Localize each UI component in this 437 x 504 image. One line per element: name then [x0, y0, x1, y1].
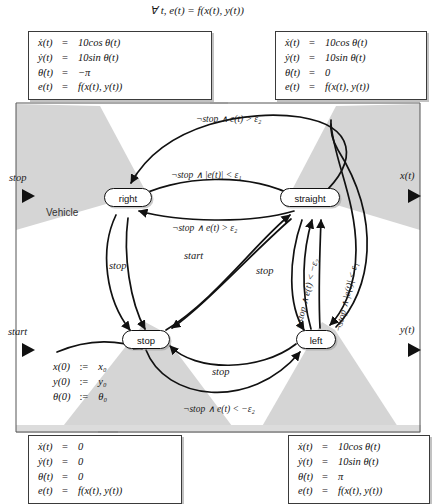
straight-equation-table: ẋ(t) = 10cos θ(t) ẏ(t) = 10sin θ(t) θ̇(t…: [282, 36, 372, 95]
equation-row: ẋ(t) = 10cos θ(t): [295, 440, 385, 455]
equation-row: ẏ(t) = 10sin θ(t): [35, 51, 125, 66]
eq-lhs: ẏ(t): [295, 455, 316, 470]
eq-op: =: [316, 470, 334, 485]
equation-row: e(t) = f(x(t), y(t)): [35, 484, 125, 499]
init-op: :=: [73, 360, 94, 375]
eq-lhs: ẋ(t): [282, 36, 303, 51]
eq-rhs: 0: [74, 440, 125, 455]
eq-op: =: [56, 470, 74, 485]
state-node-left[interactable]: left: [296, 330, 336, 349]
eq-op: =: [56, 484, 74, 499]
global-formula: ∀ t, e(t) = f(x(t), y(t)): [150, 4, 244, 17]
equation-row: e(t) = f(x(t), y(t)): [35, 80, 125, 95]
eq-op: =: [316, 440, 334, 455]
init-assignment-block: x(0) := x₀ y(0) := y₀ θ(0) := θ₀: [50, 360, 110, 404]
eq-rhs: −π: [74, 66, 125, 81]
eq-rhs: 10sin θ(t): [321, 51, 372, 66]
eq-op: =: [56, 80, 74, 95]
vehicle-label: Vehicle: [46, 207, 78, 218]
init-rhs: y₀: [94, 375, 110, 390]
eq-op: =: [303, 80, 321, 95]
eq-lhs: e(t): [35, 484, 56, 499]
equation-row: ẏ(t) = 0: [35, 455, 125, 470]
y-output-port-label: y(t): [400, 324, 415, 335]
init-row: θ(0) := θ₀: [50, 390, 110, 405]
eq-op: =: [56, 36, 74, 51]
eq-op: =: [316, 484, 334, 499]
eq-lhs: ẏ(t): [35, 51, 56, 66]
init-op: :=: [73, 390, 94, 405]
init-op: :=: [73, 375, 94, 390]
init-rhs: x₀: [94, 360, 110, 375]
state-label-stop: stop: [137, 335, 155, 346]
eq-lhs: ẋ(t): [295, 440, 316, 455]
eq-lhs: ẏ(t): [35, 455, 56, 470]
state-label-right: right: [119, 193, 137, 204]
eq-op: =: [56, 440, 74, 455]
eq-lhs: θ̇(t): [295, 470, 316, 485]
guard-straight-right-inner: ¬stop ∧ e(t) > ε₂: [172, 222, 237, 233]
stop-equation-table: ẋ(t) = 0 ẏ(t) = 0 θ̇(t) = 0 e(t) = f(x(t…: [35, 440, 125, 499]
start-input-port-label: start: [8, 326, 27, 337]
right-equation-table: ẋ(t) = 10cos θ(t) ẏ(t) = 10sin θ(t) θ̇(t…: [35, 36, 125, 95]
eq-op: =: [316, 455, 334, 470]
arc-right-straight: [132, 179, 297, 200]
equation-row: ẋ(t) = 0: [35, 440, 125, 455]
eq-rhs: 10cos θ(t): [334, 440, 385, 455]
eq-rhs: 10cos θ(t): [321, 36, 372, 51]
figure-canvas: ∀ t, e(t) = f(x(t), y(t)) ẋ(t) = 10cos θ…: [0, 0, 437, 504]
init-lhs: θ(0): [50, 390, 73, 405]
label-stop-straight-start: start: [184, 250, 203, 261]
init-row: y(0) := y₀: [50, 375, 110, 390]
eq-lhs: e(t): [35, 80, 56, 95]
eq-lhs: θ̇(t): [35, 470, 56, 485]
equation-row: ẋ(t) = 10cos θ(t): [35, 36, 125, 51]
state-node-straight[interactable]: straight: [280, 188, 340, 207]
left-equation-box: ẋ(t) = 10cos θ(t) ẏ(t) = 10sin θ(t) θ̇(t…: [288, 435, 430, 504]
init-rhs: θ₀: [94, 390, 110, 405]
equation-row: θ̇(t) = π: [295, 470, 385, 485]
eq-rhs: 0: [74, 470, 125, 485]
eq-rhs: 10sin θ(t): [74, 51, 125, 66]
equation-row: θ̇(t) = 0: [282, 66, 372, 81]
eq-op: =: [303, 66, 321, 81]
init-table: x(0) := x₀ y(0) := y₀ θ(0) := θ₀: [50, 360, 110, 404]
state-node-stop[interactable]: stop: [122, 330, 170, 349]
eq-rhs: 0: [74, 455, 125, 470]
equation-row: ẏ(t) = 10sin θ(t): [295, 455, 385, 470]
equation-row: θ̇(t) = 0: [35, 470, 125, 485]
eq-lhs: θ̇(t): [35, 66, 56, 81]
equation-row: e(t) = f(x(t), y(t)): [282, 80, 372, 95]
eq-op: =: [303, 51, 321, 66]
init-lhs: x(0): [50, 360, 73, 375]
left-equation-table: ẋ(t) = 10cos θ(t) ẏ(t) = 10sin θ(t) θ̇(t…: [295, 440, 385, 499]
equation-row: ẏ(t) = 10sin θ(t): [282, 51, 372, 66]
eq-rhs: 10sin θ(t): [334, 455, 385, 470]
guard-right-straight: ¬stop ∧ |e(t)| < ε₁: [171, 169, 242, 180]
arc-left-stop: [170, 344, 296, 365]
eq-lhs: θ̇(t): [282, 66, 303, 81]
eq-rhs: 10cos θ(t): [74, 36, 125, 51]
init-row: x(0) := x₀: [50, 360, 110, 375]
eq-lhs: e(t): [295, 484, 316, 499]
state-label-left: left: [310, 335, 323, 346]
straight-equation-box: ẋ(t) = 10cos θ(t) ẏ(t) = 10sin θ(t) θ̇(t…: [275, 31, 427, 100]
equation-row: θ̇(t) = −π: [35, 66, 125, 81]
eq-op: =: [56, 51, 74, 66]
eq-rhs: f(x(t), y(t)): [321, 80, 372, 95]
guard-straight-right-outer: ¬stop ∧ e(t) > ε₂: [196, 113, 261, 124]
label-left-stop: stop: [212, 366, 230, 377]
x-output-port-label: x(t): [400, 170, 415, 181]
state-node-right[interactable]: right: [104, 188, 152, 207]
eq-op: =: [56, 455, 74, 470]
init-lhs: y(0): [50, 375, 73, 390]
eq-op: =: [303, 36, 321, 51]
arc-right-stop-b: [126, 218, 145, 329]
label-right-stop-a: stop: [109, 260, 127, 271]
eq-lhs: ẋ(t): [35, 440, 56, 455]
eq-rhs: f(x(t), y(t)): [74, 80, 125, 95]
start-port-arrowhead: [22, 343, 35, 357]
equation-row: ẋ(t) = 10cos θ(t): [282, 36, 372, 51]
eq-rhs: π: [334, 470, 385, 485]
label-straight-stop: stop: [256, 265, 274, 276]
